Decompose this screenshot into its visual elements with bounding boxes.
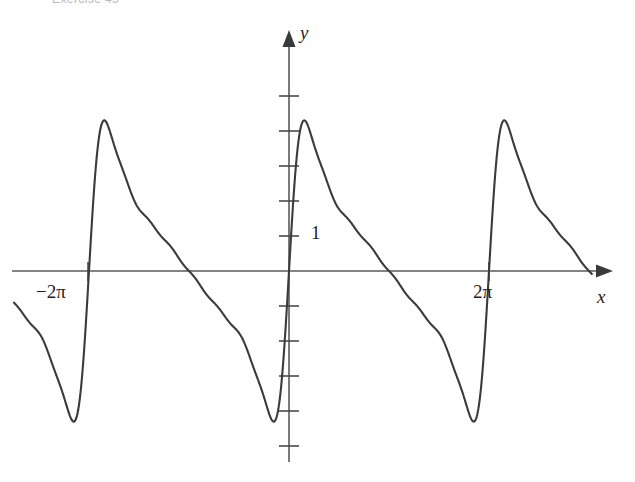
y-axis-label: y: [300, 22, 308, 44]
y-tick-label-one: 1: [311, 222, 321, 244]
function-graph-figure: Exercise 45 y x: [0, 0, 635, 482]
x-tick-label-neg-two-pi: −2π: [36, 281, 66, 303]
x-axis-arrowhead: [596, 265, 613, 278]
y-axis-arrowhead: [283, 30, 296, 47]
x-tick-label-two-pi: 2π: [473, 281, 492, 303]
x-axis-label: x: [597, 286, 605, 308]
